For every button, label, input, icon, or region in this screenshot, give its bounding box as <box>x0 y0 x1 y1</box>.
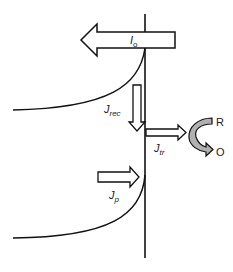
jp-label-sub: p <box>114 195 120 204</box>
r-label: R <box>216 116 224 128</box>
jtr-label-sub: tr <box>160 148 165 157</box>
jp-arrow <box>98 167 139 187</box>
jrec-arrow <box>129 85 145 131</box>
svg-text:Jrec: Jrec <box>103 103 121 118</box>
redox-curved-arrow <box>189 118 213 156</box>
o-label: O <box>216 146 225 158</box>
jtr-arrow <box>146 125 186 140</box>
lower-profile-curve <box>13 175 145 238</box>
upper-profile-curve <box>13 48 145 110</box>
io-label-sub: o <box>133 40 138 49</box>
electrode-current-diagram: Io Jrec Jtr R O Jp <box>0 0 233 272</box>
svg-text:Jp: Jp <box>108 189 120 204</box>
io-arrow <box>81 24 175 56</box>
svg-text:Jtr: Jtr <box>153 142 165 157</box>
jrec-label-sub: rec <box>110 109 121 118</box>
